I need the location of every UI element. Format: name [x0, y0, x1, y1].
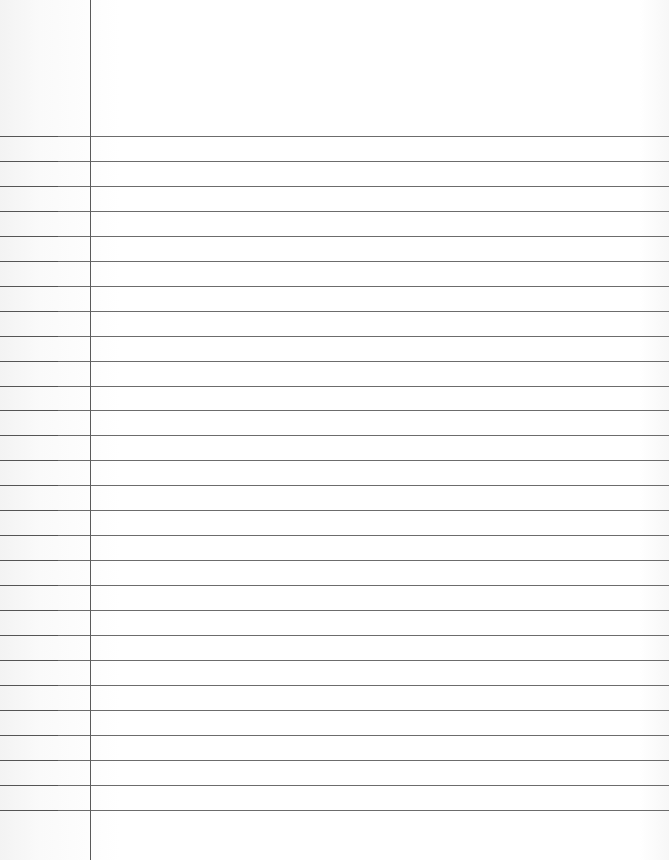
ruled-line-left-segment [0, 685, 58, 686]
ruled-line-left-segment [0, 460, 58, 461]
ruled-line [0, 435, 669, 436]
ruled-line-left-segment [0, 435, 58, 436]
ruled-line-left-segment [0, 635, 58, 636]
ruled-line [0, 286, 669, 287]
ruled-line-left-segment [0, 311, 58, 312]
ruled-line [0, 535, 669, 536]
ruled-line-left-segment [0, 710, 58, 711]
ruled-line [0, 136, 669, 137]
ruled-line-left-segment [0, 136, 58, 137]
ruled-line-left-segment [0, 610, 58, 611]
ruled-line-left-segment [0, 535, 58, 536]
ruled-line-left-segment [0, 510, 58, 511]
ruled-line-left-segment [0, 211, 58, 212]
ruled-line-left-segment [0, 760, 58, 761]
ruled-line-left-segment [0, 560, 58, 561]
ruled-line-left-segment [0, 485, 58, 486]
ruled-line [0, 386, 669, 387]
ruled-line [0, 460, 669, 461]
ruled-line [0, 760, 669, 761]
ruled-line-left-segment [0, 161, 58, 162]
ruled-line [0, 735, 669, 736]
ruled-line-left-segment [0, 386, 58, 387]
ruled-line [0, 261, 669, 262]
ruled-line [0, 560, 669, 561]
ruled-line [0, 485, 669, 486]
ruled-line [0, 610, 669, 611]
ruled-line-left-segment [0, 660, 58, 661]
ruled-line-left-segment [0, 361, 58, 362]
ruled-line [0, 510, 669, 511]
ruled-line [0, 810, 669, 811]
ruled-line [0, 211, 669, 212]
ruled-line-left-segment [0, 261, 58, 262]
ruled-line [0, 635, 669, 636]
ruled-line [0, 361, 669, 362]
ruled-line [0, 660, 669, 661]
ruled-line [0, 585, 669, 586]
lined-paper [0, 0, 669, 860]
margin-line [90, 0, 91, 860]
ruled-line [0, 685, 669, 686]
ruled-line-left-segment [0, 785, 58, 786]
ruled-line [0, 161, 669, 162]
ruled-line-left-segment [0, 810, 58, 811]
ruled-line-left-segment [0, 236, 58, 237]
ruled-line [0, 236, 669, 237]
ruled-line-left-segment [0, 336, 58, 337]
ruled-line-left-segment [0, 286, 58, 287]
ruled-line [0, 785, 669, 786]
ruled-line-left-segment [0, 410, 58, 411]
ruled-line [0, 410, 669, 411]
ruled-line-left-segment [0, 585, 58, 586]
ruled-line-left-segment [0, 735, 58, 736]
ruled-line [0, 710, 669, 711]
ruled-line [0, 186, 669, 187]
ruled-line [0, 336, 669, 337]
ruled-line [0, 311, 669, 312]
ruled-line-left-segment [0, 186, 58, 187]
